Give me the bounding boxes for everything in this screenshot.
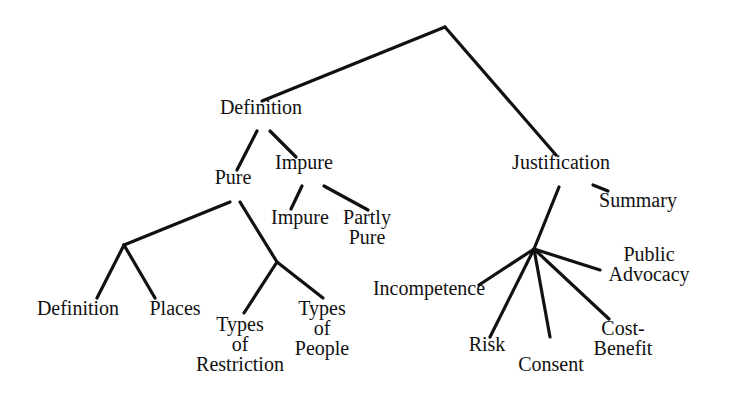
node-label-line: Risk	[469, 334, 506, 354]
node-cost-benefit: Cost-Benefit	[594, 318, 653, 358]
node-label-line: Types	[196, 314, 284, 334]
node-places: Places	[149, 298, 200, 318]
node-label-line: Benefit	[594, 338, 653, 358]
node-label-line: Advocacy	[608, 264, 689, 284]
tree-edge	[124, 245, 155, 298]
tree-edge	[262, 27, 445, 101]
node-label-line: Partly	[343, 207, 391, 227]
node-consent: Consent	[518, 354, 584, 374]
tree-edge	[277, 262, 323, 298]
node-label-line: Incompetence	[373, 278, 485, 298]
node-partly-pure: PartlyPure	[343, 207, 391, 247]
node-label-line: Consent	[518, 354, 584, 374]
tree-edge	[244, 262, 277, 313]
node-impure-group: Impure	[275, 152, 333, 172]
node-pure: Pure	[215, 167, 252, 187]
node-label-line: Restriction	[196, 354, 284, 374]
node-label-line: Justification	[512, 152, 610, 172]
node-label-line: Definition	[37, 298, 119, 318]
node-label-line: Cost-	[594, 318, 653, 338]
node-types-of-restriction: TypesofRestriction	[196, 314, 284, 374]
node-label-line: Impure	[271, 207, 329, 227]
node-label-line: Types	[295, 298, 349, 318]
node-summary: Summary	[599, 190, 677, 210]
node-risk: Risk	[469, 334, 506, 354]
tree-edge	[124, 202, 230, 245]
node-label-line: of	[196, 334, 284, 354]
node-label-line: Pure	[215, 167, 252, 187]
node-label-line: Public	[608, 244, 689, 264]
tree-edge	[534, 187, 559, 249]
node-incompetence: Incompetence	[373, 278, 485, 298]
node-types-of-people: TypesofPeople	[295, 298, 349, 358]
tree-edge	[97, 245, 124, 298]
node-impure-leaf: Impure	[271, 207, 329, 227]
tree-edge	[237, 131, 257, 170]
node-label-line: People	[295, 338, 349, 358]
node-public-advocacy: PublicAdvocacy	[608, 244, 689, 284]
node-justification: Justification	[512, 152, 610, 172]
node-label-line: Definition	[220, 97, 302, 117]
node-label-line: Summary	[599, 190, 677, 210]
tree-edge	[445, 27, 556, 155]
node-label-line: Places	[149, 298, 200, 318]
node-label-line: of	[295, 318, 349, 338]
node-label-line: Pure	[343, 227, 391, 247]
node-definition-leaf: Definition	[37, 298, 119, 318]
node-definition: Definition	[220, 97, 302, 117]
node-label-line: Impure	[275, 152, 333, 172]
